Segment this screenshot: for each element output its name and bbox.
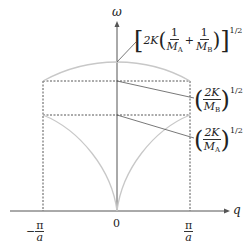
numerator: 1 xyxy=(200,26,209,40)
coef: 2K xyxy=(143,34,158,47)
mass-symbol: M xyxy=(196,40,207,53)
fraction: π a xyxy=(35,220,44,243)
subscript: A xyxy=(178,46,183,54)
q-label: q xyxy=(233,204,241,216)
mass-symbol: M xyxy=(166,40,177,53)
numerator: 2K xyxy=(203,126,220,140)
exponent: 1/2 xyxy=(230,126,243,135)
omega-axis-arrow-icon xyxy=(115,21,120,27)
mass-symbol: M xyxy=(204,140,215,153)
dispersion-diagram: ω q − π a 0 π a [ 2K ( 1 MA + 1 MB ) ] 1… xyxy=(0,0,246,252)
annotation-mb: ( 2K MB ) 1/2 xyxy=(194,86,243,114)
numerator: 2K xyxy=(203,86,220,100)
subscript: A xyxy=(215,146,220,154)
fraction: π a xyxy=(184,220,193,243)
omega-label: ω xyxy=(112,6,122,18)
exponent: 1/2 xyxy=(230,26,243,35)
q-axis-arrow-icon xyxy=(224,209,230,214)
annotation-optical-max: [ 2K ( 1 MA + 1 MB ) ] 1/2 xyxy=(134,26,242,54)
mass-symbol: M xyxy=(204,100,215,113)
fraction: 2K MA xyxy=(203,126,220,154)
tick-denominator: a xyxy=(37,232,44,243)
tick-denominator: a xyxy=(185,232,192,243)
tick-pi-over-a: π a xyxy=(184,220,193,243)
fraction-mb: 1 MB xyxy=(196,26,212,54)
fraction-ma: 1 MA xyxy=(166,26,182,54)
leader-middle xyxy=(117,81,194,98)
tick-minus-pi-over-a: − π a xyxy=(26,220,44,243)
acoustic-branch-right xyxy=(117,115,190,211)
tick-origin: 0 xyxy=(113,218,120,229)
exponent: 1/2 xyxy=(230,86,243,95)
numerator: 1 xyxy=(170,26,179,40)
acoustic-branch-left xyxy=(43,115,117,211)
minus-sign: − xyxy=(26,226,35,237)
plus-sign: + xyxy=(185,34,194,47)
annotation-ma: ( 2K MA ) 1/2 xyxy=(194,126,243,154)
fraction: 2K MB xyxy=(203,86,220,114)
subscript: B xyxy=(215,106,220,114)
